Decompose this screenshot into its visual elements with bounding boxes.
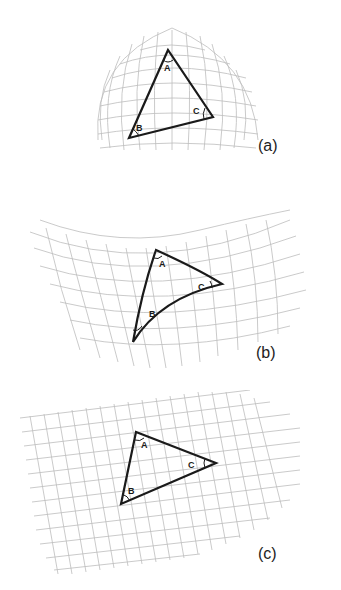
plane-diagram: A B C	[0, 390, 341, 590]
vertex-a-label: A	[159, 259, 166, 269]
vertex-c-label: C	[198, 282, 205, 292]
panel-label-a: (a)	[258, 137, 278, 155]
saddle-diagram: A B C	[0, 190, 341, 390]
vertex-c-label: C	[188, 460, 195, 470]
panel-label-c: (c)	[258, 545, 277, 563]
sphere-diagram: A B C	[0, 0, 341, 190]
angle-c-arc	[203, 108, 205, 119]
panel-b-saddle: A B C (b)	[0, 190, 341, 390]
panel-c-plane: A B C (c)	[0, 390, 341, 590]
vertex-b-label: B	[128, 486, 135, 496]
panel-a-sphere: A B C (a)	[0, 0, 341, 190]
vertex-a-label: A	[164, 63, 171, 73]
vertex-a-label: A	[141, 440, 148, 450]
vertex-b-label: B	[149, 309, 156, 319]
panel-label-b: (b)	[256, 344, 276, 362]
vertex-c-label: C	[193, 106, 200, 116]
sphere-grid	[98, 28, 258, 150]
vertex-b-label: B	[136, 123, 143, 133]
angle-c-arc	[204, 458, 205, 468]
